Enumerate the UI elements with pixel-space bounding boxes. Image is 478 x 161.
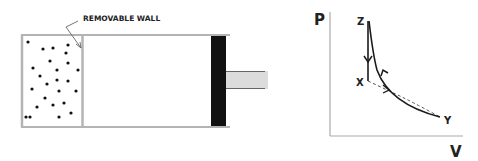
gas-particle <box>35 105 38 108</box>
arrow-up-icon <box>381 70 388 76</box>
gas-particle <box>66 61 69 64</box>
gas-particle <box>51 103 54 106</box>
gas-particle <box>28 115 31 118</box>
pv-diagram: P V Z X Y <box>314 11 463 161</box>
gas-particle <box>43 96 46 99</box>
gas-particles <box>24 40 79 118</box>
cylinder-apparatus: REMOVABLE WALL <box>21 14 268 127</box>
gas-particle <box>24 115 27 118</box>
gas-particle <box>57 115 60 118</box>
gas-particle <box>74 89 77 92</box>
process-y-to-z-curve <box>369 21 440 117</box>
gas-particle <box>69 111 72 114</box>
gas-particle <box>26 40 29 43</box>
piston <box>211 36 226 126</box>
gas-particle <box>62 101 65 104</box>
gas-particle <box>76 68 79 71</box>
gas-particle <box>51 46 54 49</box>
gas-particle <box>45 82 48 85</box>
point-z-label: Z <box>357 16 364 27</box>
piston-rod <box>226 71 268 89</box>
diagram-canvas: REMOVABLE WALL P V Z X Y <box>0 0 478 161</box>
gas-particle <box>31 66 34 69</box>
gas-particle <box>55 78 58 81</box>
point-y-label: Y <box>443 115 452 126</box>
point-x-label: X <box>356 77 364 88</box>
gas-particle <box>57 89 60 92</box>
process-x-to-y-dashed <box>368 81 440 117</box>
gas-particle <box>30 87 33 90</box>
removable-wall-label: REMOVABLE WALL <box>83 14 160 23</box>
gas-particle <box>66 43 69 46</box>
y-axis-label: P <box>314 11 325 29</box>
gas-particle <box>55 68 58 71</box>
gas-particle <box>48 59 51 62</box>
gas-particle <box>66 79 69 82</box>
gas-particle <box>38 74 41 77</box>
x-axis-label: V <box>450 143 462 161</box>
gas-particle <box>64 51 67 54</box>
gas-particle <box>41 47 44 50</box>
